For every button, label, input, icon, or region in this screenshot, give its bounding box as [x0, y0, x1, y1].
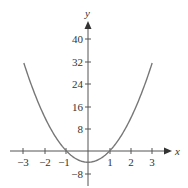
- x-tick-label: 3: [149, 156, 155, 168]
- x-tick-label: 2: [128, 156, 134, 168]
- x-axis-label: x: [174, 145, 180, 157]
- y-tick-label: −8: [71, 168, 83, 180]
- y-axis-label: y: [84, 7, 90, 19]
- y-tick-label: 24: [72, 78, 84, 90]
- x-tick-label: 1: [107, 156, 113, 168]
- x-axis-arrow-icon: [164, 148, 172, 155]
- y-tick-label: 8: [78, 123, 84, 135]
- x-tick-label: −2: [39, 156, 51, 168]
- x-tick-label: −1: [58, 156, 70, 168]
- parabola-chart: x y −3 −2 −1 1 2 3 40 32 24 16 8 −8: [0, 0, 188, 188]
- y-tick-label: 32: [72, 56, 83, 68]
- y-tick-label: 16: [72, 101, 84, 113]
- y-axis-arrow-icon: [85, 21, 92, 29]
- x-tick-label: −3: [17, 156, 29, 168]
- y-tick-label: 40: [72, 33, 84, 45]
